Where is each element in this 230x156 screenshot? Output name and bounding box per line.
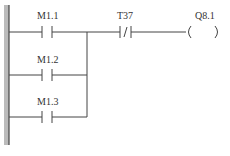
power-rail: [4, 5, 9, 145]
coil-label-q8-1: Q8.1: [195, 10, 215, 21]
contact-label-m1-3: M1.3: [37, 96, 58, 107]
contact-label-m1-2: M1.2: [37, 54, 58, 65]
contact-label-m1-1: M1.1: [37, 10, 58, 21]
ladder-diagram: M1.1 M1.2 M1.3 T37 Q8.1: [0, 0, 230, 156]
contact-label-t37: T37: [117, 10, 133, 21]
